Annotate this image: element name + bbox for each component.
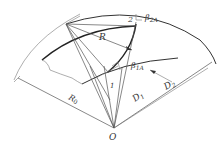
label-point-2: 2 <box>127 15 133 24</box>
inner-arc-d1 <box>42 26 136 60</box>
blade-wedge-line <box>96 66 118 78</box>
r0-tick <box>14 76 20 82</box>
radial-line-1 <box>66 24 114 128</box>
tangent-line-top <box>66 16 80 24</box>
label-beta-2a: β2A <box>144 13 158 23</box>
label-d1: D1 <box>130 89 146 105</box>
radial-line-2 <box>90 66 114 128</box>
radial-line-3 <box>104 66 114 128</box>
radial-line-5 <box>114 22 136 128</box>
d1-arrow-head <box>150 70 156 74</box>
hub-contour <box>42 60 82 84</box>
construction-line-a <box>66 24 136 26</box>
label-origin-o: O <box>109 132 117 142</box>
label-r0: R0 <box>66 92 80 105</box>
radial-line-d2 <box>114 62 212 128</box>
outer-arc-d2 <box>66 15 216 64</box>
label-r: R <box>98 32 106 42</box>
label-point-1: 1 <box>110 82 114 90</box>
impeller-blade-diagram: 2 β2A R β1A 1 R0 D1 D2 O <box>0 0 220 149</box>
inner-arc-d1-lower <box>82 58 178 84</box>
d2-dimension-line <box>114 68 208 128</box>
radial-line-4 <box>114 68 122 128</box>
radial-line-r0 <box>18 78 114 128</box>
